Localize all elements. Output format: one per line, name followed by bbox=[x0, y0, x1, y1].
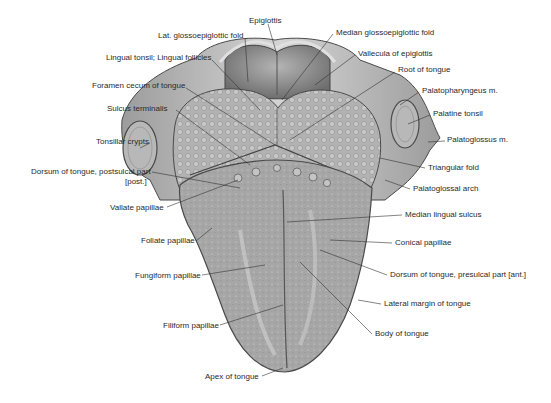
label-palatopharyngeus-m: Palatopharyngeus m. bbox=[422, 86, 498, 95]
label-apex-of-tongue: Apex of tongue bbox=[205, 372, 259, 381]
label-foliate-papillae: Foliate papillae bbox=[141, 236, 195, 245]
label-tonsillar-crypts: Tonsillar crypts bbox=[96, 137, 149, 146]
label-body-of-tongue: Body of tongue bbox=[375, 329, 429, 338]
label-lat-glossoepiglottic-fold: Lat. glossoepiglottic fold bbox=[158, 31, 243, 40]
label-palatoglossal-arch: Palatoglossal arch bbox=[413, 184, 478, 193]
label-lingual-tonsil: Lingual tonsil; Lingual follicles bbox=[106, 53, 211, 62]
label-conical-papillae: Conical papillae bbox=[395, 238, 451, 247]
label-dorsum-postsulcal-post: [post.] bbox=[125, 177, 147, 186]
label-vallate-papillae: Vallate papillae bbox=[110, 203, 164, 212]
label-palatoglossus-m: Palatoglossus m. bbox=[447, 135, 508, 144]
label-median-lingual-sulcus: Median lingual sulcus bbox=[405, 210, 482, 219]
label-triangular-fold: Triangular fold bbox=[428, 163, 479, 172]
label-fungiform-papillae: Fungiform papillae bbox=[135, 271, 201, 280]
right-palatine-tonsil bbox=[391, 100, 419, 148]
label-dorsum-postsulcal: Dorsum of tongue, postsulcal part bbox=[31, 167, 151, 176]
label-epiglottis: Epiglottis bbox=[249, 16, 281, 25]
label-dorsum-presulcal: Dorsum of tongue, presulcal part [ant.] bbox=[390, 270, 526, 279]
label-median-glossoepiglottic-fold: Median glossoepiglottic fold bbox=[336, 28, 434, 37]
label-foramen-cecum: Foramen cecum of tongue bbox=[92, 81, 185, 90]
label-lateral-margin: Lateral margin of tongue bbox=[384, 299, 471, 308]
tongue-illustration bbox=[0, 0, 551, 403]
label-palatine-tonsil: Palatine tonsil bbox=[433, 109, 483, 118]
body-of-tongue bbox=[179, 160, 372, 372]
label-root-of-tongue: Root of tongue bbox=[398, 65, 450, 74]
label-vallecula-of-epiglottis: Vallecula of epiglottis bbox=[358, 49, 433, 58]
label-sulcus-terminalis: Sulcus terminalis bbox=[107, 104, 167, 113]
label-filiform-papillae: Filiform papillae bbox=[163, 321, 219, 330]
